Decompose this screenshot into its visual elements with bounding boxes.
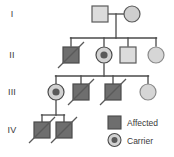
individual-ii-4-female-unaffected[interactable]: [148, 47, 164, 63]
legend-affected-label: Affected: [127, 118, 158, 128]
generation-labels: I II III IV: [8, 9, 17, 135]
individual-iii-1-female-carrier[interactable]: [48, 84, 64, 100]
carrier-dot-icon: [52, 88, 59, 95]
generation-iv-group: [29, 117, 77, 143]
individual-i-2-female-unaffected[interactable]: [124, 6, 140, 22]
legend-affected-square-icon: [108, 116, 121, 129]
generation-iii-group: [48, 79, 156, 105]
generation-label-iii: III: [8, 87, 16, 97]
legend-carrier-label: Carrier: [127, 136, 153, 146]
legend: Affected Carrier: [108, 116, 158, 147]
generation-ii-group: [58, 42, 164, 68]
pedigree-chart: I II III IV Affected Carrier: [0, 0, 174, 157]
legend-item-carrier: Carrier: [108, 134, 153, 147]
generation-label-i: I: [11, 9, 14, 19]
legend-carrier-dot-icon: [112, 137, 118, 143]
individual-ii-2-female-carrier[interactable]: [96, 47, 112, 63]
generation-label-ii: II: [9, 50, 14, 60]
individual-ii-3-male-unaffected[interactable]: [120, 47, 136, 63]
generation-label-iv: IV: [8, 125, 17, 135]
carrier-dot-icon: [100, 51, 107, 58]
individual-i-1-male-unaffected[interactable]: [92, 6, 108, 22]
pedigree-svg: I II III IV Affected Carrier: [0, 0, 174, 157]
legend-item-affected: Affected: [108, 116, 158, 129]
individual-iii-4-female-unaffected[interactable]: [140, 84, 156, 100]
